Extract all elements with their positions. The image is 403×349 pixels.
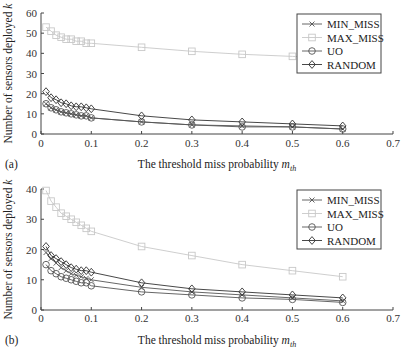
y-tick-label: 10 xyxy=(26,274,38,286)
legend: MIN_MISSMAX_MISSUORANDOM xyxy=(297,14,384,73)
x-tick-label: 0.4 xyxy=(235,137,249,149)
y-tick-label: 0 xyxy=(32,304,38,316)
x-axis-label: The threshold miss probability mth xyxy=(138,334,296,349)
panel-label: (b) xyxy=(5,334,19,347)
y-tick-label: 40 xyxy=(26,183,38,195)
x-tick-label: 0.1 xyxy=(84,137,98,149)
y-tick-label: 40 xyxy=(26,47,38,59)
legend-entry: UO xyxy=(327,221,343,233)
legend-entry: MIN_MISS xyxy=(327,194,380,206)
x-tick-label: 0 xyxy=(38,312,44,324)
x-tick-label: 0.7 xyxy=(386,312,400,324)
series-uo xyxy=(43,261,346,305)
x-tick-label: 0 xyxy=(38,137,44,149)
legend: MIN_MISSMAX_MISSUORANDOM xyxy=(297,190,384,249)
y-axis-label: Number of sensors deployed k xyxy=(2,179,15,320)
x-tick-label: 0.2 xyxy=(135,137,149,149)
y-tick-label: 60 xyxy=(26,7,38,19)
chart-figure: 00.10.20.30.40.50.60.70102030405060The t… xyxy=(0,0,403,349)
panel-label: (a) xyxy=(5,158,18,171)
x-tick-label: 0.6 xyxy=(336,137,350,149)
chart-panel-b: 00.10.20.30.40.50.60.7010203040The thres… xyxy=(2,179,400,349)
y-axis-label: Number of sensors deployed k xyxy=(2,3,15,144)
legend-entry: MIN_MISS xyxy=(327,18,380,30)
x-tick-label: 0.6 xyxy=(336,312,350,324)
x-tick-label: 0.3 xyxy=(185,137,199,149)
y-tick-label: 20 xyxy=(26,244,38,256)
legend-entry: RANDOM xyxy=(327,235,376,247)
x-tick-label: 0.1 xyxy=(84,312,98,324)
x-tick-label: 0.4 xyxy=(235,312,249,324)
x-tick-label: 0.2 xyxy=(135,312,149,324)
x-tick-label: 0.5 xyxy=(286,137,300,149)
y-tick-label: 0 xyxy=(32,128,38,140)
x-tick-label: 0.7 xyxy=(386,137,400,149)
x-axis-label: The threshold miss probability mth xyxy=(138,158,296,173)
y-tick-label: 20 xyxy=(26,88,38,100)
legend-entry: MAX_MISS xyxy=(327,208,384,220)
y-tick-label: 10 xyxy=(26,108,38,120)
x-tick-label: 0.5 xyxy=(286,312,300,324)
legend-entry: MAX_MISS xyxy=(327,32,384,44)
y-tick-label: 50 xyxy=(26,27,38,39)
y-tick-label: 30 xyxy=(26,213,38,225)
chart-panel-a: 00.10.20.30.40.50.60.70102030405060The t… xyxy=(2,3,400,173)
legend-entry: UO xyxy=(327,45,343,57)
y-tick-label: 30 xyxy=(26,68,38,80)
series-uo xyxy=(43,100,346,132)
x-tick-label: 0.3 xyxy=(185,312,199,324)
legend-entry: RANDOM xyxy=(327,59,376,71)
